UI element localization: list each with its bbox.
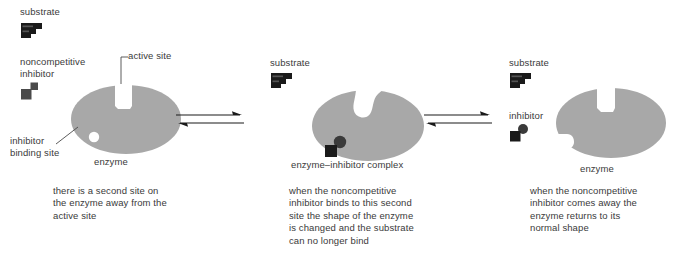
active-site-label: active site [128,50,171,62]
active-site-notch [115,84,132,109]
noncompetitive-inhibition-diagram: substrate noncompetitive inhibitor activ… [0,0,675,258]
enzyme-restored-shape [553,86,669,162]
active-site-notch [597,86,615,112]
reversible-arrow-2 [424,110,492,134]
noncompetitive-inhibitor-icon [20,82,44,102]
stage1-noncompetitive-inhibitor-label: noncompetitive inhibitor [20,56,85,79]
stage1-substrate-label: substrate [20,6,60,18]
empty-inhibitor-binding-site [553,134,574,149]
substrate-icon [270,72,298,92]
stage1-caption: there is a second site on the enzyme awa… [53,185,243,222]
stage2-substrate-label: substrate [270,57,310,69]
substrate-icon [509,72,537,92]
enzyme-inhibitor-complex [308,88,428,164]
inhibitor-icon [509,124,533,144]
inhibitor-binding-site-label: inhibitor binding site [10,135,59,158]
stage3-enzyme-label: enzyme [580,163,614,175]
stage2-enzyme-label: enzyme–inhibitor complex [291,159,403,171]
reversible-arrow-1 [176,110,244,134]
stage3-inhibitor-label: inhibitor [509,110,543,122]
stage2-caption: when the noncompetitive inhibitor binds … [289,185,484,247]
stage3-substrate-label: substrate [509,57,549,69]
stage1-enzyme-label: enzyme [94,156,128,168]
stage3-caption: when the noncompetitive inhibitor comes … [530,185,675,235]
binding-site-leader-line [56,126,100,150]
substrate-icon [20,22,48,42]
